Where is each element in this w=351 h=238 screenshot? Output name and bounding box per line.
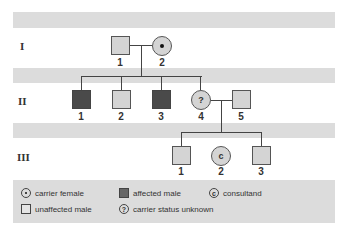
- legend-unaffected-male: unaffected male: [21, 204, 92, 214]
- individual-number: 3: [151, 111, 171, 122]
- individual-iii-1[interactable]: [172, 146, 191, 165]
- consultand-icon: c: [209, 188, 219, 198]
- generation-band-1: [13, 12, 335, 28]
- descent-line-i: [141, 45, 142, 76]
- drop-line: [261, 132, 262, 146]
- individual-i-2[interactable]: [152, 36, 172, 56]
- question-mark-icon: ?: [198, 95, 204, 105]
- question-mark-icon: ?: [119, 204, 129, 214]
- drop-line: [161, 76, 162, 90]
- legend-affected-male: affected male: [119, 188, 181, 198]
- individual-ii-5[interactable]: [232, 90, 251, 109]
- individual-number: 2: [152, 57, 172, 68]
- individual-i-1[interactable]: [111, 36, 130, 55]
- descent-line-ii: [221, 100, 222, 133]
- individual-number: 1: [110, 57, 130, 68]
- drop-line: [121, 76, 122, 90]
- individual-iii-2[interactable]: c: [211, 146, 231, 166]
- affected-male-icon: [119, 188, 129, 198]
- carrier-female-icon: [21, 188, 31, 198]
- individual-number: 4: [191, 111, 211, 122]
- sibship-line-ii: [81, 76, 202, 77]
- unaffected-male-icon: [21, 204, 31, 214]
- generation-label-ii: II: [18, 95, 27, 107]
- individual-number: 1: [71, 111, 91, 122]
- legend-carrier-status-unknown: ? carrier status unknown: [119, 204, 213, 214]
- individual-number: 5: [231, 111, 251, 122]
- generation-label-i: I: [20, 40, 24, 52]
- carrier-dot-icon: [160, 44, 164, 48]
- consultand-icon: c: [218, 151, 223, 161]
- individual-ii-2[interactable]: [112, 90, 131, 109]
- individual-iii-3[interactable]: [252, 146, 271, 165]
- generation-label-iii: III: [17, 151, 30, 163]
- individual-number: 3: [251, 166, 271, 177]
- individual-number: 2: [211, 166, 231, 177]
- individual-ii-4[interactable]: ?: [191, 90, 211, 110]
- drop-line: [200, 76, 201, 90]
- individual-ii-3[interactable]: [152, 90, 171, 109]
- sibship-line-iii: [181, 132, 262, 133]
- drop-line: [181, 132, 182, 146]
- drop-line: [81, 76, 82, 90]
- individual-ii-1[interactable]: [72, 90, 91, 109]
- legend-consultand: c consultand: [209, 188, 262, 198]
- individual-number: 1: [171, 166, 191, 177]
- legend: carrier female unaffected male affected …: [13, 180, 335, 223]
- generation-band-3: [13, 123, 335, 138]
- individual-number: 2: [111, 111, 131, 122]
- legend-carrier-female: carrier female: [21, 188, 84, 198]
